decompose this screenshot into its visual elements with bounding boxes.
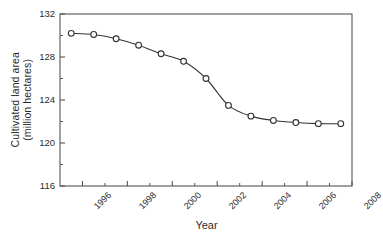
- data-point: [226, 102, 232, 108]
- data-point: [338, 121, 344, 127]
- y-axis-ticks: [60, 14, 65, 186]
- data-series-markers: [68, 30, 343, 126]
- data-point: [68, 30, 74, 36]
- y-tick-label: 124: [33, 94, 55, 105]
- y-tick-label: 116: [33, 180, 55, 191]
- data-point: [91, 32, 97, 38]
- data-point: [181, 58, 187, 64]
- x-axis-ticks: [82, 181, 352, 186]
- axes-frame: [60, 14, 352, 186]
- y-tick-label: 128: [33, 51, 55, 62]
- data-point: [293, 120, 299, 126]
- data-point: [203, 76, 209, 82]
- data-point: [158, 51, 164, 57]
- data-point: [136, 42, 142, 48]
- data-point: [315, 121, 321, 127]
- data-point: [113, 36, 119, 42]
- x-axis-label: Year: [60, 219, 353, 231]
- data-point: [248, 113, 254, 119]
- y-tick-label: 120: [33, 137, 55, 148]
- data-point: [270, 118, 276, 124]
- y-tick-label: 132: [33, 8, 55, 19]
